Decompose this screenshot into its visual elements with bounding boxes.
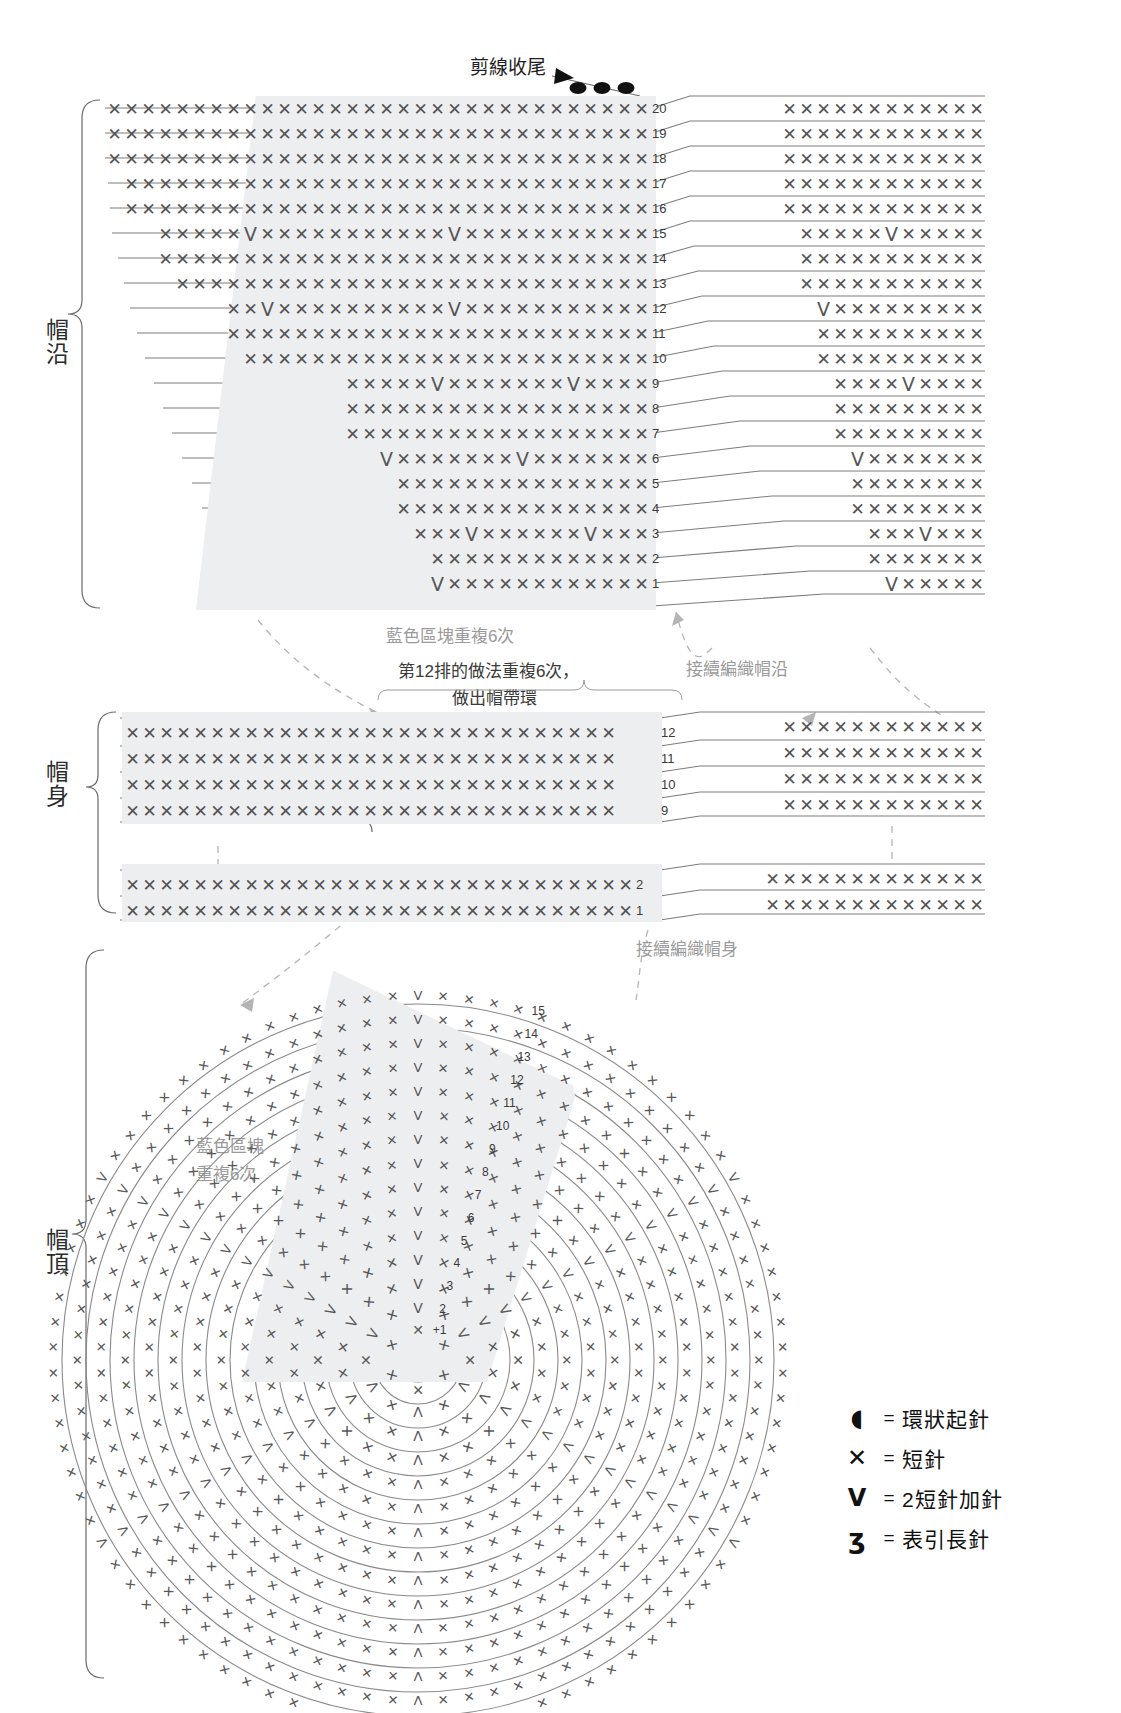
single-crochet-icon: ✕ bbox=[866, 271, 883, 297]
sc-increase-icon: V bbox=[378, 446, 395, 472]
single-crochet-icon: ✕ bbox=[951, 446, 968, 472]
single-crochet-icon: ✕ bbox=[225, 246, 242, 272]
stitch-row: ✕✕✕✕✕✕✕✕✕✕✕✕✕✕✕✕✕✕✕✕✕✕✕✕✕✕✕✕✕✕✕17 bbox=[123, 171, 666, 197]
single-crochet-icon: ✕ bbox=[883, 121, 900, 147]
single-crochet-icon: ✕ bbox=[293, 171, 310, 197]
single-crochet-icon: ✕ bbox=[260, 872, 277, 898]
single-crochet-icon: ✕ bbox=[481, 872, 498, 898]
single-crochet-icon: ✕ bbox=[514, 121, 531, 147]
sc-increase-icon: V bbox=[411, 1691, 425, 1709]
single-crochet-icon: ✕ bbox=[832, 221, 849, 247]
single-crochet-icon: ✕ bbox=[849, 146, 866, 172]
single-crochet-icon: ✕ bbox=[515, 720, 532, 746]
single-crochet-icon: ✕ bbox=[497, 96, 514, 122]
row-number: 18 bbox=[652, 146, 666, 172]
single-crochet-icon: ✕ bbox=[866, 892, 883, 918]
single-crochet-icon: ✕ bbox=[917, 892, 934, 918]
stitch-row: V✕✕✕✕✕✕✕V✕✕✕✕✕✕✕6 bbox=[378, 446, 659, 472]
single-crochet-icon: ✕ bbox=[429, 471, 446, 497]
single-crochet-icon: ✕ bbox=[917, 571, 934, 597]
single-crochet-icon: ✕ bbox=[566, 746, 583, 772]
single-crochet-icon: ✕ bbox=[344, 321, 361, 347]
single-crochet-icon: ✕ bbox=[917, 321, 934, 347]
crown-round-number: 3 bbox=[446, 1279, 453, 1293]
single-crochet-icon: ✕ bbox=[583, 798, 600, 824]
sc-increase-icon: V bbox=[411, 1571, 425, 1589]
single-crochet-icon: ✕ bbox=[531, 271, 548, 297]
single-crochet-icon: ✕ bbox=[276, 271, 293, 297]
row-number: 8 bbox=[652, 396, 659, 422]
finish-bead bbox=[570, 82, 587, 94]
single-crochet-icon: ✕ bbox=[412, 246, 429, 272]
single-crochet-icon: ✕ bbox=[514, 171, 531, 197]
single-crochet-icon: ✕ bbox=[616, 221, 633, 247]
single-crochet-icon: ✕ bbox=[616, 96, 633, 122]
single-crochet-icon: ✕ bbox=[123, 121, 140, 147]
single-crochet-icon: ✕ bbox=[447, 746, 464, 772]
single-crochet-icon: ✕ bbox=[141, 1365, 160, 1380]
single-crochet-icon: ✕ bbox=[883, 866, 900, 892]
single-crochet-icon: ✕ bbox=[436, 1690, 451, 1709]
single-crochet-icon: ✕ bbox=[917, 446, 934, 472]
single-crochet-icon: ✕ bbox=[883, 271, 900, 297]
single-crochet-icon: ✕ bbox=[934, 246, 951, 272]
single-crochet-icon: ✕ bbox=[311, 720, 328, 746]
sc-increase-icon: V bbox=[411, 1275, 425, 1293]
stitch-row: ✕✕✕✕✕✕✕✕✕✕✕✕ bbox=[781, 740, 985, 766]
single-crochet-icon: ✕ bbox=[45, 1365, 63, 1380]
stitch-row: ✕✕✕✕✕✕✕✕✕✕✕✕✕✕✕✕✕✕✕✕✕✕✕✕✕✕✕✕✕10 bbox=[124, 772, 617, 798]
single-crochet-icon: ✕ bbox=[798, 271, 815, 297]
single-crochet-icon: ✕ bbox=[849, 321, 866, 347]
single-crochet-icon: ✕ bbox=[395, 346, 412, 372]
single-crochet-icon: ✕ bbox=[832, 371, 849, 397]
single-crochet-icon: ✕ bbox=[781, 866, 798, 892]
single-crochet-icon: ✕ bbox=[395, 296, 412, 322]
sc-increase-icon: V bbox=[883, 221, 900, 247]
single-crochet-icon: ✕ bbox=[192, 898, 209, 924]
single-crochet-icon: ✕ bbox=[883, 471, 900, 497]
single-crochet-icon: ✕ bbox=[385, 1060, 401, 1079]
single-crochet-icon: ✕ bbox=[900, 446, 917, 472]
single-crochet-icon: ✕ bbox=[616, 246, 633, 272]
single-crochet-icon: ✕ bbox=[815, 246, 832, 272]
single-crochet-icon: ✕ bbox=[744, 1402, 764, 1419]
single-crochet-icon: ✕ bbox=[616, 421, 633, 447]
sc-increase-icon: V bbox=[411, 1083, 425, 1101]
single-crochet-icon: ✕ bbox=[497, 446, 514, 472]
single-crochet-icon: ✕ bbox=[480, 521, 497, 547]
single-crochet-icon: ✕ bbox=[514, 371, 531, 397]
single-crochet-icon: ✕ bbox=[259, 146, 276, 172]
single-crochet-icon: ✕ bbox=[175, 898, 192, 924]
single-crochet-icon: ✕ bbox=[446, 271, 463, 297]
single-crochet-icon: ✕ bbox=[413, 898, 430, 924]
single-crochet-icon: ✕ bbox=[412, 146, 429, 172]
single-crochet-icon: ✕ bbox=[599, 571, 616, 597]
single-crochet-icon: ✕ bbox=[328, 872, 345, 898]
single-crochet-icon: ✕ bbox=[166, 1378, 185, 1394]
single-crochet-icon: ✕ bbox=[617, 898, 634, 924]
single-crochet-icon: ✕ bbox=[429, 96, 446, 122]
single-crochet-icon: ✕ bbox=[429, 146, 446, 172]
single-crochet-icon: ✕ bbox=[165, 1353, 183, 1367]
single-crochet-icon: ✕ bbox=[548, 146, 565, 172]
single-crochet-icon: ✕ bbox=[514, 271, 531, 297]
single-crochet-icon: ✕ bbox=[260, 746, 277, 772]
single-crochet-icon: ✕ bbox=[549, 872, 566, 898]
single-crochet-icon: ✕ bbox=[582, 196, 599, 222]
single-crochet-icon: ✕ bbox=[497, 421, 514, 447]
stitch-row: ✕✕✕✕✕✕✕✕✕✕✕✕✕✕✕✕✕✕✕✕✕✕✕✕✕✕✕✕✕✕2 bbox=[124, 872, 643, 898]
single-crochet-icon: ✕ bbox=[69, 1378, 88, 1393]
single-crochet-icon: ✕ bbox=[460, 1062, 477, 1082]
single-crochet-icon: ✕ bbox=[497, 371, 514, 397]
single-crochet-icon: ✕ bbox=[429, 196, 446, 222]
single-crochet-icon: ✕ bbox=[883, 146, 900, 172]
single-crochet-icon: ✕ bbox=[174, 171, 191, 197]
single-crochet-icon: ✕ bbox=[361, 421, 378, 447]
single-crochet-icon: ✕ bbox=[934, 571, 951, 597]
single-crochet-icon: ✕ bbox=[327, 271, 344, 297]
single-crochet-icon: ✕ bbox=[143, 1314, 163, 1330]
single-crochet-icon: ✕ bbox=[781, 146, 798, 172]
single-crochet-icon: ✕ bbox=[651, 1378, 670, 1394]
single-crochet-icon: ✕ bbox=[548, 471, 565, 497]
single-crochet-icon: ✕ bbox=[565, 446, 582, 472]
